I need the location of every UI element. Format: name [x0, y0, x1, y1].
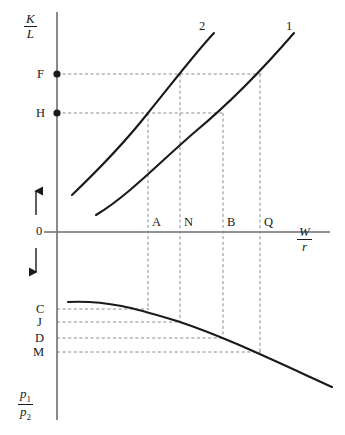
curve-label-1: 1: [286, 20, 292, 33]
relative-price-curve: [68, 302, 332, 387]
upper-x-axis-label: W r: [297, 225, 312, 255]
tick-label-N: N: [184, 216, 193, 229]
upper-y-axis-denominator: L: [24, 26, 37, 42]
tick-label-D: D: [35, 332, 44, 345]
diagram-svg: [0, 0, 345, 435]
diagram-canvas: K L W r p1 p2 0 2 1 F H A N B Q C J D M: [0, 0, 345, 435]
tick-label-J: J: [37, 316, 42, 329]
guide-lines-vertical: [148, 74, 260, 353]
upper-y-axis-numerator: K: [24, 12, 37, 26]
tick-label-B: B: [227, 216, 235, 229]
tick-label-H: H: [36, 107, 45, 120]
lower-y-axis-denominator: p2: [18, 404, 33, 422]
axis-dot-H: [53, 109, 60, 116]
tick-label-F: F: [37, 68, 44, 81]
tick-label-M: M: [33, 346, 44, 359]
upper-x-axis-denominator: r: [297, 239, 312, 255]
tick-label-C: C: [36, 303, 44, 316]
axis-dot-F: [53, 70, 60, 77]
guide-lines-upper-horizontal: [57, 74, 262, 113]
upper-y-axis-label: K L: [24, 12, 37, 42]
lower-y-axis-label: p1 p2: [18, 387, 33, 422]
tick-label-Q: Q: [264, 216, 273, 229]
lower-y-axis-numerator: p1: [18, 387, 33, 404]
curve-1: [96, 33, 294, 215]
upper-x-axis-numerator: W: [297, 225, 312, 239]
origin-label: 0: [36, 225, 42, 238]
curve-2: [72, 33, 214, 195]
tick-label-A: A: [152, 216, 161, 229]
curve-label-2: 2: [199, 20, 205, 33]
